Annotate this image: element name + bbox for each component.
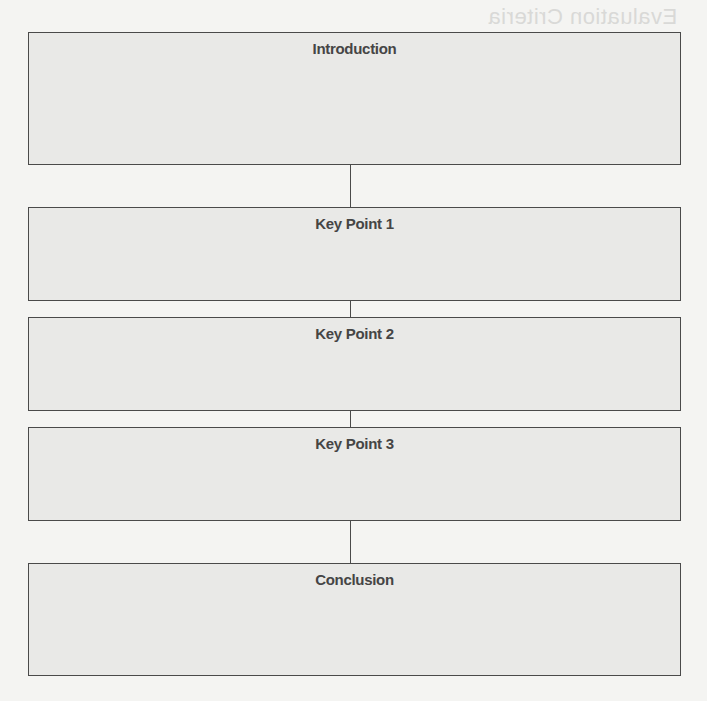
introduction-box: Introduction bbox=[28, 32, 681, 165]
conclusion-title: Conclusion bbox=[29, 564, 680, 588]
key-point-1-title: Key Point 1 bbox=[29, 208, 680, 232]
show-through-text: Evaluation Criteria bbox=[488, 4, 677, 30]
key-point-3-box: Key Point 3 bbox=[28, 427, 681, 521]
key-point-3-title: Key Point 3 bbox=[29, 428, 680, 452]
connector-line bbox=[350, 520, 351, 564]
conclusion-box: Conclusion bbox=[28, 563, 681, 676]
connector-line bbox=[350, 300, 351, 318]
key-point-1-box: Key Point 1 bbox=[28, 207, 681, 301]
introduction-title: Introduction bbox=[29, 33, 680, 57]
connector-line bbox=[350, 164, 351, 208]
key-point-2-box: Key Point 2 bbox=[28, 317, 681, 411]
key-point-2-title: Key Point 2 bbox=[29, 318, 680, 342]
connector-line bbox=[350, 410, 351, 428]
